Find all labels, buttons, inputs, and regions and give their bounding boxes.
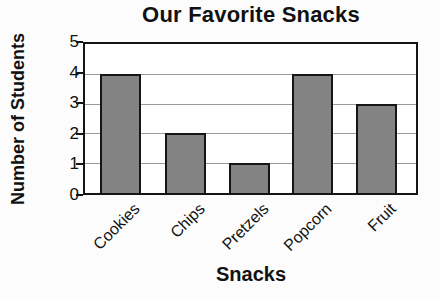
y-tick-mark-1 [76, 163, 83, 165]
bar-fruit [356, 104, 397, 193]
bar-cookies [100, 74, 141, 193]
y-tick-mark-2 [76, 133, 83, 135]
category-label-cookies: Cookies [90, 200, 144, 254]
y-tick-mark-5 [76, 41, 83, 43]
bar-pretzels [229, 163, 270, 193]
plot-area [83, 42, 418, 195]
y-tick-mark-4 [76, 72, 83, 74]
category-label-fruit: Fruit [364, 200, 399, 235]
y-tick-mark-0 [76, 194, 83, 196]
x-axis-label: Snacks [84, 263, 418, 286]
chart-title: Our Favorite Snacks [84, 2, 418, 28]
bar-popcorn [292, 74, 333, 193]
y-tick-mark-3 [76, 102, 83, 104]
category-label-chips: Chips [167, 200, 209, 242]
category-label-pretzels: Pretzels [219, 200, 273, 254]
category-label-popcorn: Popcorn [280, 200, 335, 255]
y-axis-label: Number of Students [8, 9, 30, 229]
bar-chips [165, 133, 206, 193]
bar-chart: Our Favorite Snacks Number of Students 5… [0, 0, 440, 300]
